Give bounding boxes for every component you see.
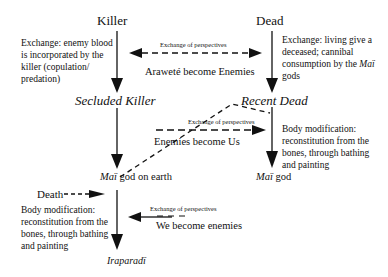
mai-term: Maï (256, 171, 273, 182)
node-secluded-killer: Secluded Killer (75, 94, 156, 107)
node-recent-dead: Recent Dead (241, 94, 308, 107)
node-iraparadi: Iraparadï (107, 256, 146, 266)
exchange-caption-top: Araweté become Enemies (145, 67, 255, 78)
exchange-label-bottom: Exchange of perspectives (150, 206, 216, 213)
desc-killer-exchange: Exchange: enemy blood is incorporated by… (21, 37, 116, 85)
desc-body-mod-right: Body modification: reconstitution from t… (282, 123, 377, 171)
arrow-dead-to-recent (266, 31, 278, 93)
node-mai-god-on-earth: Maï god on earth (100, 172, 172, 183)
death-arrow (64, 190, 105, 198)
exchange-arrow-top (129, 48, 262, 58)
mai-term: Maï (359, 59, 374, 69)
desc-body-mod-left: Body modification: reconstitution from t… (21, 204, 113, 252)
node-death: Death (37, 189, 63, 200)
diagram-canvas: Killer Dead Secluded Killer Recent Dead … (0, 0, 388, 277)
exchange-label-top: Exchange of perspectives (160, 42, 226, 49)
mai-god-rest: god (273, 171, 291, 182)
arrow-recent-to-mai-god (266, 107, 278, 168)
node-killer: Killer (97, 14, 127, 27)
mai-term: Maï (100, 171, 117, 182)
exchange-label-middle: Exchange of perspectives (188, 119, 254, 126)
node-dead: Dead (256, 14, 283, 27)
node-mai-god: Maï god (256, 172, 291, 183)
desc-dead-exchange-end: gods (282, 71, 300, 81)
exchange-arrow-middle (156, 125, 266, 135)
exchange-caption-middle: Enemies become Us (154, 137, 240, 148)
exchange-caption-bottom: We become enemies (156, 221, 242, 232)
arrow-secluded-to-mai-earth (111, 108, 123, 169)
mai-god-on-earth-rest: god on earth (117, 171, 172, 182)
desc-dead-exchange: Exchange: living give a deceased; cannib… (282, 34, 382, 82)
